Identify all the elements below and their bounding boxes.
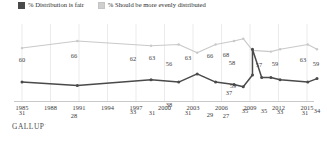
brand-text: GALLUP: [12, 122, 44, 131]
brand-mark: ·: [44, 122, 46, 127]
data-point-marker[interactable]: [196, 52, 198, 54]
data-point-marker[interactable]: [150, 78, 153, 81]
axis-line: [14, 101, 314, 102]
data-point-marker[interactable]: [178, 43, 180, 45]
data-point-marker[interactable]: [214, 43, 216, 45]
gallup-logo: GALLUP·: [12, 122, 46, 131]
square-swatch-icon: [98, 2, 105, 9]
x-tick-label: 1997: [130, 104, 143, 111]
x-tick-label: 1991: [73, 104, 86, 111]
series-line: [22, 39, 317, 53]
data-point-marker[interactable]: [233, 40, 235, 42]
data-point-marker[interactable]: [76, 84, 79, 87]
data-point-marker[interactable]: [242, 85, 245, 88]
data-point-marker[interactable]: [260, 76, 263, 79]
data-point-marker[interactable]: [269, 76, 272, 79]
x-tick-label: 2003: [187, 104, 200, 111]
data-point-marker[interactable]: [21, 47, 23, 49]
data-point-marker[interactable]: [279, 48, 281, 50]
data-point-marker[interactable]: [279, 78, 282, 81]
data-point-marker[interactable]: [316, 77, 319, 80]
x-tick-label: 1988: [44, 104, 57, 111]
x-tick-label: 2015: [301, 104, 314, 111]
data-point-marker[interactable]: [177, 81, 180, 84]
data-point-marker[interactable]: [150, 45, 152, 47]
data-point-marker[interactable]: [316, 48, 318, 50]
x-tick-label: 1985: [16, 104, 29, 111]
legend-label: % Should be more evenly distributed: [108, 2, 206, 9]
series-line: [22, 49, 317, 87]
data-point-marker[interactable]: [251, 74, 254, 77]
x-tick-label: 2012: [272, 104, 285, 111]
data-point-marker[interactable]: [306, 81, 309, 84]
data-point-marker[interactable]: [76, 40, 78, 42]
x-tick-label: 2009: [244, 104, 257, 111]
data-point-marker[interactable]: [242, 37, 244, 39]
gallup-line-chart: % Distribution is fair % Should be more …: [0, 0, 327, 141]
plot-svg: [0, 24, 327, 101]
data-point-marker[interactable]: [21, 81, 24, 84]
data-point-marker[interactable]: [196, 72, 199, 75]
data-point-marker[interactable]: [307, 43, 309, 45]
data-point-marker[interactable]: [233, 83, 236, 86]
legend-item-more-evenly-distributed[interactable]: % Should be more evenly distributed: [98, 2, 206, 9]
x-tick-labels: 1985198819911994199720002003200620092012…: [0, 104, 327, 116]
data-point-marker[interactable]: [214, 81, 217, 84]
x-tick-label: 2000: [158, 104, 171, 111]
x-axis: 1985198819911994199720002003200620092012…: [0, 101, 327, 117]
series-lines: [21, 37, 319, 88]
chart-legend: % Distribution is fair % Should be more …: [18, 2, 206, 9]
x-tick-label: 2006: [215, 104, 228, 111]
square-swatch-icon: [18, 2, 25, 9]
gridlines: [22, 24, 307, 101]
plot-area: 6066626356636668585759635931283331383129…: [0, 24, 327, 101]
data-point-marker[interactable]: [251, 48, 254, 51]
legend-label: % Distribution is fair: [28, 2, 84, 9]
legend-item-distribution-fair[interactable]: % Distribution is fair: [18, 2, 84, 9]
data-point-marker[interactable]: [270, 50, 272, 52]
x-tick-label: 1994: [101, 104, 114, 111]
